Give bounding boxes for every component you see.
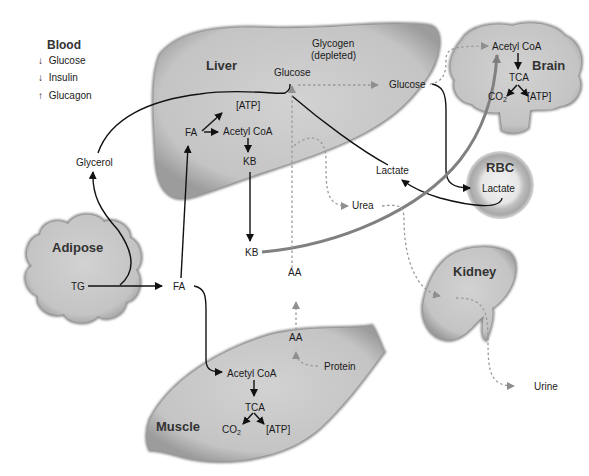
liver-acetyl-coa: Acetyl CoA — [223, 126, 272, 138]
kidney-shape — [423, 247, 515, 340]
brain-co2: CO2 — [488, 91, 507, 106]
legend-item-glucagon: ↑ Glucagon — [38, 90, 92, 101]
rbc-label: RBC — [486, 160, 514, 175]
blood-glycerol: Glycerol — [76, 157, 113, 169]
muscle-acetyl-coa: Acetyl CoA — [227, 368, 276, 380]
liver-glycogen-state: (depleted) — [311, 50, 356, 62]
blood-urine: Urine — [534, 381, 558, 393]
adipose-tg: TG — [71, 281, 85, 293]
kidney-label: Kidney — [453, 264, 496, 279]
liver-fa: FA — [185, 127, 197, 139]
adipose-label: Adipose — [52, 240, 103, 255]
liver-glucose: Glucose — [274, 67, 311, 79]
legend-item-glucose: ↓ Glucose — [38, 55, 85, 66]
arrow-down-icon: ↓ — [38, 55, 46, 66]
brain-label: Brain — [532, 58, 565, 73]
muscle-shape — [147, 326, 384, 461]
muscle-aa: AA — [289, 332, 302, 344]
liver-atp: [ATP] — [236, 100, 260, 112]
liver-glycogen: Glycogen — [312, 38, 354, 50]
legend-title: Blood — [47, 38, 81, 52]
arrow-up-icon: ↑ — [38, 90, 46, 101]
blood-kb: KB — [245, 247, 258, 259]
blood-aa: AA — [288, 267, 301, 279]
arrow-down-icon: ↓ — [38, 72, 46, 83]
muscle-co2: CO2 — [222, 424, 241, 439]
brain-atp: [ATP] — [527, 91, 551, 103]
blood-lactate: Lactate — [376, 165, 409, 177]
liver-kb: KB — [243, 156, 256, 168]
legend-item-insulin: ↓ Insulin — [38, 72, 78, 83]
muscle-protein: Protein — [324, 361, 356, 373]
muscle-atp: [ATP] — [266, 424, 290, 436]
blood-urea: Urea — [352, 200, 374, 212]
liver-label: Liver — [206, 58, 237, 73]
brain-tca: TCA — [509, 72, 529, 84]
muscle-tca: TCA — [245, 402, 265, 414]
rbc-lactate: Lactate — [482, 183, 515, 195]
brain-acetyl-coa: Acetyl CoA — [492, 41, 541, 53]
blood-fa: FA — [173, 281, 185, 293]
adipose-shape — [26, 215, 141, 323]
blood-glucose: Glucose — [389, 79, 426, 91]
muscle-label: Muscle — [156, 419, 200, 434]
